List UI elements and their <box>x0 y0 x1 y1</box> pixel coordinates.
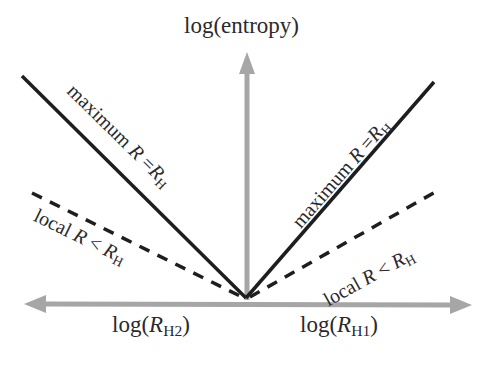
local-left-line <box>32 193 244 298</box>
label-sub: H2 <box>163 322 182 339</box>
y-axis-label: log(entropy) <box>184 14 299 37</box>
x-axis-left-label: log(RH2) <box>112 313 190 339</box>
label-var: R <box>337 312 351 337</box>
label-sub: H1 <box>351 322 370 339</box>
max-left-line <box>22 76 246 298</box>
label-prefix: log( <box>300 312 337 337</box>
label-suffix: ) <box>370 312 378 337</box>
label-suffix: ) <box>182 312 190 337</box>
entropy-diagram <box>0 0 495 365</box>
y-axis <box>239 52 255 300</box>
y-axis-arrow-icon <box>239 52 255 74</box>
x-axis-right-arrow-icon <box>450 296 472 314</box>
label-var: R <box>149 312 163 337</box>
x-axis-right-label: log(RH1) <box>300 313 378 339</box>
x-axis-left-arrow-icon <box>24 295 46 313</box>
label-prefix: log( <box>112 312 149 337</box>
